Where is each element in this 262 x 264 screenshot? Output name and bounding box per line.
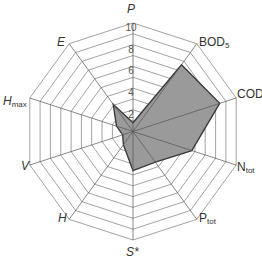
axis-label-ptot: Ptot [199, 212, 216, 226]
axis-spoke [69, 44, 133, 132]
axis-spoke [69, 132, 133, 220]
tick-label: 10 [125, 23, 136, 33]
axis-label-subscript: max [12, 100, 27, 109]
axis-label-text: E [57, 35, 65, 49]
axis-label-text: COD [237, 87, 262, 101]
axis-label-text: N [237, 160, 246, 174]
axis-label-text: BOD [199, 35, 225, 49]
axis-label-text: V [21, 159, 29, 173]
axis-label-hmax: Hmax [3, 95, 27, 109]
axis-label-text: P [127, 2, 135, 16]
axis-label-v: V [21, 160, 29, 172]
axis-label-text: H [3, 94, 12, 108]
tick-label: 6 [128, 66, 134, 76]
axis-label-subscript: 5 [225, 41, 229, 50]
axis-label-subscript: tot [246, 166, 255, 175]
axis-label-p: P [127, 3, 135, 15]
axis-label-ntot: Ntot [237, 161, 255, 175]
axis-label-s-star: S* [126, 246, 139, 258]
axis-label-text: H [58, 211, 67, 225]
tick-label: 2 [128, 110, 134, 120]
axis-label-e: E [57, 36, 65, 48]
axis-label-h: H [58, 212, 67, 224]
tick-label: 4 [128, 88, 134, 98]
axis-label-text: P [199, 211, 207, 225]
axis-label-subscript: tot [207, 217, 216, 226]
tick-label: 8 [128, 45, 134, 55]
axis-label-bod5: BOD5 [199, 36, 229, 50]
axis-label-text: S* [126, 245, 139, 259]
axis-label-cod: COD [237, 88, 262, 100]
